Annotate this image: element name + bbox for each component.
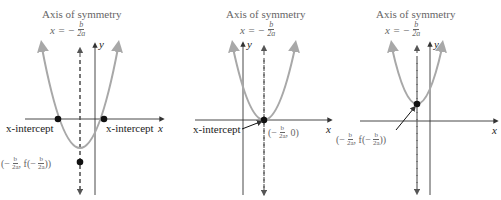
denominator: 2a	[412, 30, 420, 38]
vertex-label: (− b2a , f(− b2a ))	[1, 156, 51, 171]
vertex-point	[414, 101, 421, 108]
fraction: b2a	[412, 21, 420, 38]
vertex-suffix: , 0)	[286, 127, 299, 138]
vertex-point	[261, 117, 268, 124]
panel-one-intercept: Axis of symmetry x = − b2a y x x-interce…	[160, 0, 340, 200]
panel-two-intercepts: Axis of symmetry x = − b2a y x x-interce…	[0, 0, 170, 200]
denominator: 2a	[77, 30, 85, 38]
intercept-pointer-arrow	[242, 122, 260, 129]
vertex-prefix: (−	[336, 134, 345, 145]
panel-no-intercepts: Axis of symmetry x = − b2a y x (− b2a , …	[330, 0, 501, 200]
vertex-fraction-2: b2a	[38, 156, 45, 171]
vertex-label: (− b2a , 0)	[268, 125, 299, 140]
denominator: 2a	[279, 133, 286, 140]
vertex-prefix: (−	[268, 127, 277, 138]
formula-lhs: x = −	[50, 24, 75, 36]
formula-lhs: x = −	[240, 24, 265, 36]
fraction: b2a	[77, 21, 85, 38]
denominator: 2a	[267, 30, 275, 38]
formula-lhs: x = −	[385, 24, 410, 36]
fraction: b2a	[267, 21, 275, 38]
vertex-fraction: b2a	[279, 125, 286, 140]
y-axis-label: y	[434, 38, 439, 50]
denominator: 2a	[12, 164, 19, 171]
vertex-label: (− b2a , f(− b2a ))	[336, 132, 386, 147]
x-intercept-label-left: x-intercept	[6, 122, 54, 134]
x-intercept-label-right: x-intercept	[106, 122, 154, 134]
vertex-fraction: b2a	[12, 156, 19, 171]
axis-of-symmetry-formula: x = − b2a	[50, 21, 85, 38]
x-intercept-point-left	[55, 116, 62, 123]
y-axis-label: y	[247, 38, 252, 50]
x-axis-label: x	[492, 124, 497, 136]
y-axis-label: y	[99, 38, 104, 50]
vertex-mid: , f(−	[354, 134, 371, 145]
axis-of-symmetry-title: Axis of symmetry	[376, 8, 455, 20]
axis-of-symmetry-formula: x = − b2a	[240, 21, 275, 38]
vertex-prefix: (−	[1, 158, 10, 169]
denominator: 2a	[373, 140, 380, 147]
vertex-suffix: ))	[45, 158, 52, 169]
denominator: 2a	[347, 140, 354, 147]
axis-of-symmetry-title: Axis of symmetry	[226, 8, 305, 20]
axis-of-symmetry-title: Axis of symmetry	[42, 8, 121, 20]
axis-of-symmetry-formula: x = − b2a	[385, 21, 420, 38]
denominator: 2a	[38, 164, 45, 171]
x-intercept-label: x-intercept	[193, 123, 241, 135]
vertex-point	[77, 159, 84, 166]
vertex-fraction: b2a	[347, 132, 354, 147]
vertex-fraction-2: b2a	[373, 132, 380, 147]
vertex-mid: , f(−	[19, 158, 36, 169]
vertex-pointer-arrow	[396, 108, 414, 130]
vertex-suffix: ))	[380, 134, 387, 145]
